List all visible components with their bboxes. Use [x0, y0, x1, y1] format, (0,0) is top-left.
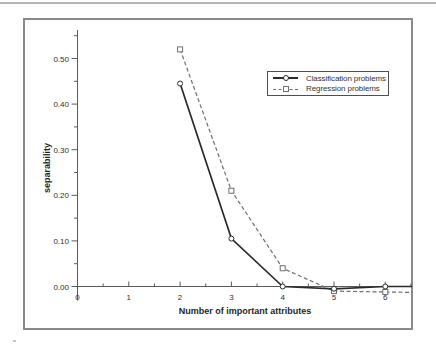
y-axis-title: separability: [42, 143, 52, 193]
data-marker-circle: [383, 284, 388, 289]
y-tick-label: 0.10: [53, 237, 69, 246]
legend-label-regression: Regression problems: [306, 84, 380, 93]
legend-item-classification: Classification problems: [273, 73, 388, 83]
y-tick-label: 0.00: [53, 283, 69, 292]
x-tick-label: 1: [127, 293, 132, 302]
data-marker-square: [383, 289, 388, 294]
data-marker-circle: [332, 286, 337, 291]
y-tick-label: 0.40: [53, 100, 69, 109]
x-tick-label: 0: [75, 293, 80, 302]
x-tick-label: 3: [229, 293, 234, 302]
page-artifact-speck: [13, 340, 16, 342]
x-axis-title: Number of important attributes: [179, 306, 312, 316]
data-marker-square: [178, 47, 183, 52]
legend-label-classification: Classification problems: [306, 74, 386, 83]
data-marker-circle: [280, 284, 285, 289]
data-marker-square: [229, 188, 234, 193]
series-line-classification: [180, 84, 412, 289]
square-marker-icon: [283, 86, 289, 92]
classification-line-sample: [273, 74, 298, 82]
y-tick-label: 0.50: [53, 55, 69, 64]
data-marker-circle: [229, 236, 234, 241]
data-marker-square: [280, 266, 285, 271]
x-tick-label: 5: [332, 293, 337, 302]
data-marker-circle: [178, 81, 183, 86]
legend: Classification problems Regression probl…: [267, 71, 389, 96]
x-tick-label: 4: [280, 293, 285, 302]
chart-plot-area: 0.000.100.200.300.400.500123456: [0, 0, 436, 353]
circle-marker-icon: [283, 75, 289, 81]
legend-item-regression: Regression problems: [273, 84, 388, 94]
regression-line-sample: [273, 85, 298, 93]
y-tick-label: 0.20: [53, 191, 69, 200]
y-tick-label: 0.30: [53, 146, 69, 155]
screenshot-root: 0.000.100.200.300.400.500123456 separabi…: [0, 0, 436, 353]
x-tick-label: 2: [178, 293, 183, 302]
